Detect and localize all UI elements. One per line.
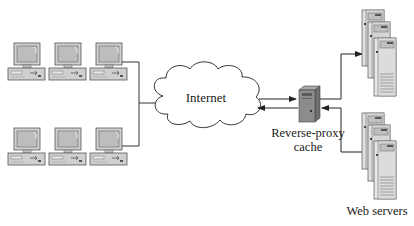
client-group-top [8, 43, 127, 80]
proxy-label-line2: cache [262, 140, 354, 154]
desktop-computer-icon [90, 43, 127, 80]
proxy-label: Reverse-proxy cache [262, 126, 354, 154]
desktop-computer-icon [49, 128, 86, 165]
proxy-label-line1: Reverse-proxy [262, 126, 354, 140]
desktop-computer-icon [8, 43, 45, 80]
server-rack-icon [362, 113, 396, 199]
server-tower-icon [299, 86, 320, 122]
web-servers-label: Web servers [340, 204, 414, 218]
client-group-bottom [8, 128, 127, 165]
server-rack-icon [362, 10, 396, 96]
desktop-computer-icon [8, 128, 45, 165]
desktop-computer-icon [49, 43, 86, 80]
connection-arrows-internet-proxy [258, 99, 298, 108]
diagram-canvas [0, 0, 414, 226]
desktop-computer-icon [90, 128, 127, 165]
internet-label: Internet [180, 91, 232, 105]
